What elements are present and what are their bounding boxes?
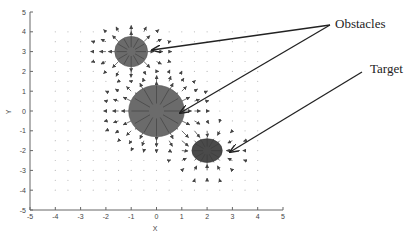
field-dot [219,81,220,82]
field-dot [118,180,119,181]
field-dot [131,190,132,191]
field-dot [219,190,220,191]
field-dot [244,120,245,121]
field-dot [219,110,220,111]
field-arrow [113,121,118,123]
y-tick-label: -1 [20,127,26,134]
field-arrow [182,97,190,101]
field-dot [181,31,182,32]
field-dot [156,160,157,161]
field-dot [169,31,170,32]
field-arrow [182,87,187,92]
x-tick-label: 3 [230,213,234,220]
field-dot [232,91,233,92]
field-arrow [217,131,219,136]
field-dot [80,140,81,141]
x-tick-label: 0 [155,213,159,220]
field-arrow [101,62,106,64]
field-dot [257,120,258,121]
field-arrow [117,81,119,82]
field-dot [118,190,119,191]
field-arrow [230,131,232,133]
field-arrow [243,141,245,142]
obstacle-arrow-1 [152,25,330,50]
field-dot [118,150,119,151]
field-dot [55,170,56,171]
field-dot [80,190,81,191]
field-dot [80,51,81,52]
field-dot [257,71,258,72]
field-dot [67,101,68,102]
field-arrow [217,166,219,171]
field-dot [194,61,195,62]
field-dot [257,31,258,32]
field-dot [118,170,119,171]
field-dot [232,31,233,32]
field-dot [194,190,195,191]
field-dot [55,130,56,131]
field-arrow [129,141,131,144]
field-dot [244,170,245,171]
field-arrow [101,39,106,41]
field-arrow [113,99,118,101]
field-arrow [169,160,171,161]
field-dot [67,61,68,62]
field-arrow [144,71,146,74]
field-arrow [112,36,118,42]
y-tick-label: 3 [22,48,26,55]
field-dot [105,81,106,82]
field-dot [194,51,195,52]
field-dot [55,160,56,161]
field-dot [93,160,94,161]
field-dot [207,31,208,32]
field-dot [181,180,182,181]
y-tick-label: -5 [20,207,26,214]
field-dot [118,160,119,161]
field-dot [80,71,81,72]
field-arrow [157,29,159,31]
field-dot [232,120,233,121]
field-dot [93,180,94,181]
field-dot [67,180,68,181]
field-arrow [115,131,118,133]
field-dot [93,190,94,191]
field-arrow [169,151,172,153]
field-dot [244,31,245,32]
x-tick-label: 5 [281,213,285,220]
field-dot [244,101,245,102]
y-tick-label: -4 [20,187,26,194]
field-arrow [243,160,245,161]
obstacles-group [115,36,223,164]
field-dot [232,180,233,181]
field-arrow [194,131,199,138]
field-dot [80,180,81,181]
field-arrow [157,39,162,41]
field-dot [105,190,106,191]
field-dot [93,81,94,82]
field-dot [194,41,195,42]
field-dot [80,61,81,62]
field-arrow [118,141,119,142]
field-dot [169,170,170,171]
field-dot [257,81,258,82]
field-dot [244,41,245,42]
field-dot [55,101,56,102]
field-dot [257,41,258,42]
field-dot [55,71,56,72]
field-dot [80,31,81,32]
y-axis-label: Y [5,109,12,114]
field-dot [67,81,68,82]
field-arrow [104,29,106,31]
field-dot [232,101,233,102]
field-dot [55,120,56,121]
field-dot [67,71,68,72]
field-arrow [182,131,189,138]
field-arrow [91,62,93,63]
field-dot [80,130,81,131]
field-dot [257,160,258,161]
x-tick-label: -3 [77,213,83,220]
field-arrow [112,62,118,68]
field-dot [169,190,170,191]
field-dot [67,140,68,141]
field-arrow [169,41,171,42]
